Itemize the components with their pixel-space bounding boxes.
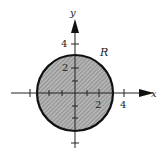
y-axis-label: y (69, 7, 76, 18)
y-tick-label-2: 2 (62, 62, 68, 73)
x-axis-label: x (151, 88, 157, 99)
y-tick-label-4: 4 (61, 38, 67, 49)
x-tick-label-2: 2 (95, 99, 101, 110)
x-tick-label-4: 4 (120, 99, 126, 110)
y-axis-arrow-icon (71, 19, 79, 33)
region-label: R (99, 46, 108, 59)
region-diagram: y x R 4 2 2 4 (0, 0, 164, 160)
